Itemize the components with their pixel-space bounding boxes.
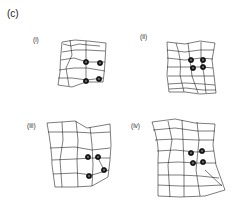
- mesh-panel-iv: [152, 119, 225, 197]
- markers-panel-ii: [188, 57, 205, 70]
- mesh-panel-iii: [47, 121, 111, 187]
- figure-canvas: [0, 0, 236, 211]
- markers-panel-i: [83, 59, 102, 83]
